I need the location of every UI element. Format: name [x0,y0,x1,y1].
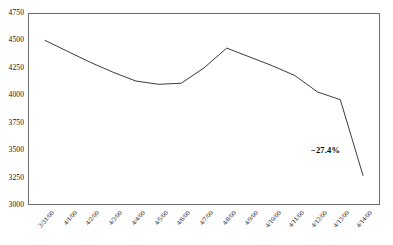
x-axis-tick-label: 4/12/00 [309,209,328,229]
y-axis-tick-label: 3250 [9,174,24,182]
x-axis-tick-label: 3/31/00 [37,209,56,229]
x-axis-tick-label: 4/14/00 [355,209,374,229]
x-axis-tick-label: 4/7/00 [198,209,214,226]
series-polyline [45,40,363,175]
y-axis-tick-label: 4750 [9,9,24,17]
line-chart: 47504500425040003750350032503000 3/31/00… [0,0,393,245]
x-axis-tick-label: 4/9/00 [243,209,259,226]
x-axis-tick-label: 4/13/00 [332,209,351,229]
x-axis-tick-label: 4/11/00 [287,209,306,228]
y-axis-tick-label: 4250 [9,64,24,72]
x-axis-tick-label: 4/6/00 [175,209,191,226]
x-axis-tick-label: 4/10/00 [264,209,283,229]
pct-change-annotation: −27.4% [311,146,340,155]
y-axis-tick-label: 3500 [9,146,24,154]
x-axis-tick-label: 4/4/00 [130,209,146,226]
y-axis-tick-label: 4500 [9,36,24,44]
series-line [28,13,380,205]
y-axis-tick-label: 3750 [9,119,24,127]
x-axis-tick-label: 4/5/00 [152,209,168,226]
x-axis-tick-label: 4/3/00 [107,209,123,226]
x-axis-tick-label: 4/2/00 [84,209,100,226]
x-axis-tick-label: 4/1/00 [61,209,77,226]
x-axis-tick-label: 4/8/00 [220,209,236,226]
y-axis-tick-label: 4000 [9,91,24,99]
x-axis: 3/31/004/1/004/2/004/3/004/4/004/5/004/6… [0,205,393,245]
